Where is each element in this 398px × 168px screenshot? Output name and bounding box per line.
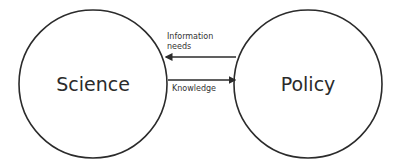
information-needs-label: Information needs <box>167 32 213 52</box>
science-policy-diagram: Science Policy Information needs Knowled… <box>0 0 398 168</box>
knowledge-label: Knowledge <box>172 84 216 94</box>
science-label: Science <box>56 73 130 95</box>
policy-label: Policy <box>281 73 336 95</box>
